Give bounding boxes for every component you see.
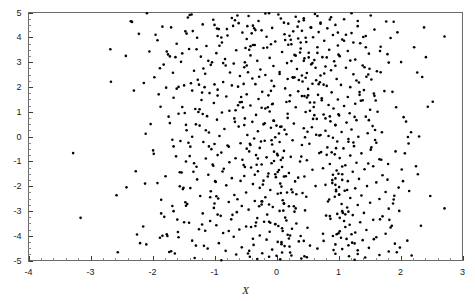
x-axis-title: X [242,285,249,296]
y-tick-label: -3 [2,206,22,215]
y-tick-label: -2 [2,182,22,191]
x-tick-label: 0 [274,268,279,277]
plot-canvas [0,0,475,301]
x-tick-label: -1 [210,268,218,277]
x-tick-label: -2 [148,268,156,277]
x-tick-label: 1 [336,268,341,277]
y-tick-label: -4 [2,231,22,240]
axis-ticks [29,14,464,262]
y-tick-label: -5 [2,256,22,265]
x-tick-label: -3 [86,268,94,277]
y-tick-label: -1 [2,157,22,166]
y-tick-label: 4 [2,33,22,42]
y-tick-label: 5 [2,8,22,17]
x-tick-label: 3 [460,268,465,277]
plot-frame [29,13,463,261]
y-tick-label: 0 [2,132,22,141]
data-points [72,12,446,262]
x-tick-label: 2 [398,268,403,277]
x-tick-label: -4 [24,268,32,277]
y-tick-label: 3 [2,58,22,67]
scatter-plot-figure: -5-4-3-2-1012345 -4-3-2-10123 X [0,0,475,301]
y-tick-label: 1 [2,107,22,116]
y-tick-label: 2 [2,82,22,91]
